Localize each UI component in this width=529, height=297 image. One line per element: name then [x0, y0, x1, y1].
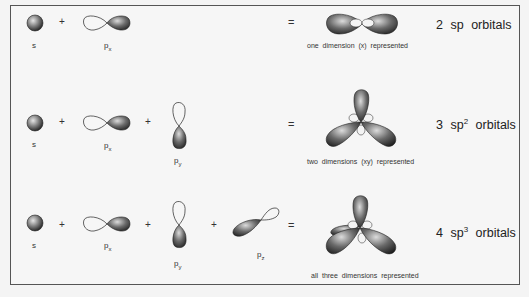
label-py: py — [174, 259, 181, 270]
plus-operator: + — [59, 116, 65, 127]
plus-operator: + — [59, 16, 65, 27]
s-orbital-icon — [26, 214, 44, 232]
equals-operator: = — [288, 118, 294, 130]
label-s: s — [32, 241, 36, 250]
py-orbital-icon — [170, 200, 188, 250]
diagram-frame — [10, 5, 520, 285]
equals-operator: = — [288, 16, 294, 28]
plus-operator: + — [145, 219, 151, 230]
px-orbital-icon — [82, 214, 132, 234]
s-orbital-icon — [26, 114, 44, 132]
sp2-hybrid-orbital-icon — [324, 90, 398, 152]
label-pz: pz — [257, 250, 264, 261]
py-orbital-icon — [170, 101, 188, 151]
plus-operator: + — [145, 116, 151, 127]
caption-three-dimensions: all three dimensions represented — [311, 272, 419, 279]
sp3-hybrid-orbital-icon — [324, 196, 402, 262]
label-s: s — [32, 41, 36, 50]
caption-two-dimensions: two dimensions (xy) represented — [307, 158, 414, 165]
sp-hybrid-orbital-icon — [325, 12, 399, 36]
pz-orbital-icon — [231, 206, 281, 238]
px-orbital-icon — [82, 113, 132, 133]
label-py: py — [174, 156, 181, 167]
plus-operator: + — [59, 219, 65, 230]
caption-one-dimension: one dimension (x) represented — [307, 42, 408, 49]
label-px: px — [104, 141, 111, 152]
label-px: px — [104, 241, 111, 252]
px-orbital-icon — [82, 13, 132, 33]
equals-operator: = — [288, 219, 294, 231]
result-sp-orbitals: 2 sp orbitals — [436, 17, 511, 32]
s-orbital-icon — [26, 14, 44, 32]
result-sp2-orbitals: 3 sp2 orbitals — [436, 117, 516, 132]
result-sp3-orbitals: 4 sp3 orbitals — [436, 225, 516, 240]
label-s: s — [32, 140, 36, 149]
plus-operator: + — [211, 219, 217, 230]
label-px: px — [104, 41, 111, 52]
